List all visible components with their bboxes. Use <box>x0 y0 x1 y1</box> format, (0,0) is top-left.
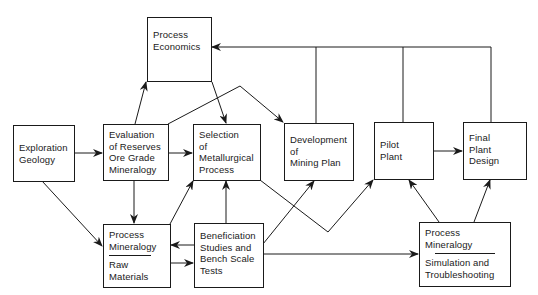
node-final-plant-design: Final Plant Design <box>463 122 527 180</box>
node-exploration-geology: Exploration Geology <box>13 125 75 182</box>
node-label-line: Mineralogy <box>109 164 163 176</box>
node-process-economics: Process Economics <box>147 17 212 82</box>
node-pilot-plant: Pilot Plant <box>374 122 434 180</box>
node-label-line: Exploration <box>19 142 69 154</box>
node-label-line: Bench Scale <box>200 253 258 265</box>
node-process-mineralogy-simulation: Process Mineralogy Simulation and Troubl… <box>419 222 511 287</box>
node-label-line: Process <box>199 164 255 176</box>
arrow-raw-to-selection <box>170 181 193 224</box>
arrow-selection-to-pilot <box>260 180 373 232</box>
node-label-line: Economics <box>153 41 206 53</box>
node-label-line: Raw <box>109 259 165 271</box>
arrow-evaluation-to-development <box>168 86 283 124</box>
arrow-exploration-to-raw <box>42 181 102 246</box>
node-label-line: Process <box>425 227 505 239</box>
node-label-line: Evaluation <box>109 129 163 141</box>
node-label-line: Mineralogy <box>425 239 505 251</box>
arrow-evaluation-to-economics <box>135 82 146 124</box>
node-label-line: Design <box>469 155 521 167</box>
node-label-line: of Reserves <box>109 141 163 153</box>
node-evaluation-of-reserves: Evaluation of Reserves Ore Grade Mineral… <box>103 124 169 181</box>
node-beneficiation-studies: Beneficiation Studies and Bench Scale Te… <box>194 223 264 288</box>
node-development-mining-plan: Development of Mining Plan <box>284 123 354 181</box>
node-label-line: Beneficiation <box>200 230 258 242</box>
node-label-line: Pilot <box>380 139 428 151</box>
section-divider <box>435 253 495 254</box>
node-label-line: Materials <box>109 271 165 283</box>
node-label-line: Plant <box>380 151 428 163</box>
node-label-line: of <box>199 141 255 153</box>
node-label-line: Process <box>153 29 206 41</box>
node-label-line: Mining Plan <box>290 157 348 169</box>
node-label-line: of <box>290 146 348 158</box>
node-label-line: Studies and <box>200 242 258 254</box>
node-label-line: Tests <box>200 265 258 277</box>
node-selection-metallurgical-process: Selection of Metallurgical Process <box>193 124 261 181</box>
node-label-line: Mineralogy <box>109 241 165 253</box>
arrow-simulation-to-pilot <box>409 180 439 222</box>
node-label-line: Final <box>469 132 521 144</box>
arrow-simulation-to-final <box>474 180 490 222</box>
node-label-line: Plant <box>469 144 521 156</box>
node-label-line: Development <box>290 134 348 146</box>
arrow-beneficiation-to-development <box>263 181 314 244</box>
node-label-line: Geology <box>19 154 69 166</box>
node-label-line: Metallurgical <box>199 152 255 164</box>
node-label-line: Troubleshooting <box>425 269 505 281</box>
arrow-economics-to-selection <box>212 82 226 123</box>
node-process-mineralogy-raw-materials: Process Mineralogy Raw Materials <box>103 224 171 288</box>
section-divider <box>109 255 151 256</box>
node-label-line: Selection <box>199 129 255 141</box>
node-label-line: Process <box>109 229 165 241</box>
node-label-line: Simulation and <box>425 257 505 269</box>
node-label-line: Ore Grade <box>109 152 163 164</box>
